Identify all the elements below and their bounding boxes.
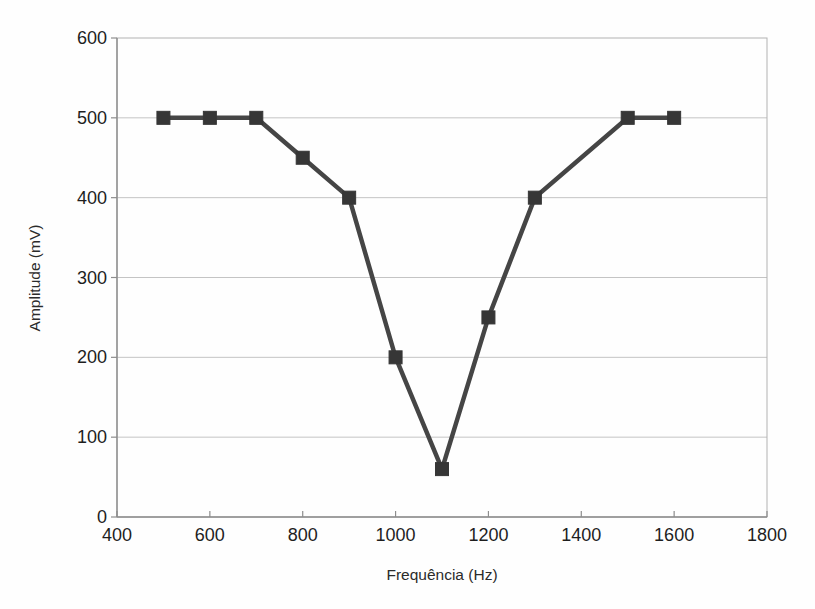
- x-tick-label: 1400: [561, 525, 601, 545]
- x-tick-label: 1600: [654, 525, 694, 545]
- data-point-marker: [668, 111, 681, 124]
- y-tick-label: 500: [77, 108, 107, 128]
- x-tick-label: 600: [195, 525, 225, 545]
- y-tick-label: 100: [77, 427, 107, 447]
- data-point-marker: [389, 351, 402, 364]
- tick-labels: 4006008001000120014001600180001002003004…: [77, 28, 787, 545]
- x-tick-label: 400: [102, 525, 132, 545]
- data-point-marker: [250, 111, 263, 124]
- y-axis-title: Amplitude (mV): [26, 225, 43, 332]
- data-point-marker: [296, 151, 309, 164]
- y-tick-label: 400: [77, 188, 107, 208]
- series-line: [163, 118, 674, 469]
- data-point-marker: [482, 311, 495, 324]
- data-point-marker: [436, 463, 449, 476]
- x-tick-label: 1800: [747, 525, 787, 545]
- plot-area: 4006008001000120014001600180001002003004…: [0, 0, 815, 609]
- x-tick-label: 1000: [376, 525, 416, 545]
- line-chart-figure: 4006008001000120014001600180001002003004…: [0, 0, 815, 609]
- data-point-marker: [203, 111, 216, 124]
- data-point-marker: [528, 191, 541, 204]
- y-tick-label: 200: [77, 347, 107, 367]
- data-series: [157, 111, 681, 475]
- data-point-marker: [157, 111, 170, 124]
- x-tick-label: 800: [288, 525, 318, 545]
- x-tick-label: 1200: [468, 525, 508, 545]
- y-tick-label: 300: [77, 268, 107, 288]
- gridlines: [117, 118, 767, 437]
- y-tick-label: 600: [77, 28, 107, 48]
- data-point-marker: [343, 191, 356, 204]
- y-tick-label: 0: [97, 507, 107, 527]
- x-axis-title: Frequência (Hz): [386, 566, 497, 583]
- data-point-marker: [621, 111, 634, 124]
